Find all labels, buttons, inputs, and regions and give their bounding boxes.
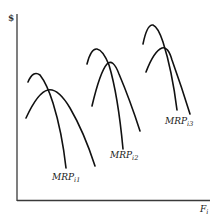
curve-label-mrp-i2: MRPi2 [110,151,138,162]
x-axis-label: Fi [200,205,208,216]
curve-label-mrp-i1: MRPi1 [52,173,80,184]
mrp-diagram: $ Fi MRPi1 MRPi2 MRPi3 [0,0,218,222]
curve-1-wide [26,90,95,166]
curve-label-main: MRP [165,116,187,126]
curve-label-sub: i3 [187,120,193,128]
curve-1-narrow [28,74,66,168]
curve-2-narrow [87,49,123,149]
curve-label-main: MRP [52,172,74,182]
diagram-graphics [0,0,218,222]
curve-label-main: MRP [110,150,132,160]
curve-label-mrp-i3: MRPi3 [165,117,193,128]
curve-label-sub: i1 [74,176,80,184]
y-axis-label: $ [8,14,14,23]
x-axis-label-sub: i [206,208,208,216]
curve-label-sub: i2 [132,154,138,162]
